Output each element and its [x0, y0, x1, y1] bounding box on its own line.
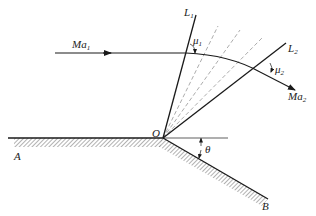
label-ma2: Ma2	[287, 90, 307, 104]
label-point-a: A	[13, 150, 21, 162]
label-l1: L1	[183, 6, 194, 20]
expansion-fan-diagram: Ma1 Ma2 L1 L2 μ1 μ2 O θ A B	[0, 0, 316, 216]
label-corner-o: O	[152, 127, 160, 139]
label-l2: L2	[287, 42, 298, 56]
mach-line-l1	[163, 15, 196, 138]
theta-angle-marker	[199, 139, 201, 159]
label-point-b: B	[262, 200, 269, 212]
wall-ob	[158, 138, 268, 206]
curved-streamline	[186, 53, 260, 72]
wall-oa	[8, 138, 163, 147]
label-ma1: Ma1	[71, 38, 90, 52]
label-mu2: μ2	[274, 63, 285, 77]
label-mu1: μ1	[192, 34, 202, 48]
mach-line-l2	[163, 43, 286, 138]
label-theta: θ	[205, 143, 211, 155]
mu2-angle-arc	[270, 63, 272, 72]
